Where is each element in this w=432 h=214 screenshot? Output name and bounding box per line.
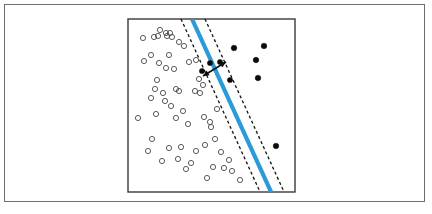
data-point (207, 60, 212, 65)
data-point (253, 57, 259, 63)
data-point (261, 43, 267, 49)
data-point (227, 77, 232, 82)
figure-root (0, 0, 432, 214)
scatter-plot-svg (0, 0, 432, 214)
plot-area-border (128, 19, 295, 192)
data-point (199, 68, 204, 73)
data-point (231, 45, 237, 51)
data-point (273, 143, 279, 149)
data-point (255, 75, 261, 81)
